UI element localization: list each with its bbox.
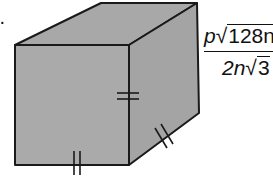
denominator-coefficient: 2n (222, 56, 245, 79)
problem-label: :. (0, 6, 5, 29)
denominator-radicand: 3 (257, 56, 270, 79)
formula-denominator: 2n√3 (204, 52, 273, 80)
sqrt-icon: √ (245, 56, 257, 79)
cube-figure: :. p√128n 2n√3 (0, 0, 273, 189)
sqrt-icon: √ (216, 24, 228, 47)
numerator-coefficient: p (204, 24, 216, 47)
formula-numerator: p√128n (204, 24, 273, 52)
cube-front-face (15, 45, 129, 165)
numerator-radicand: 128n (227, 24, 273, 47)
formula-fraction: p√128n 2n√3 (204, 24, 273, 80)
